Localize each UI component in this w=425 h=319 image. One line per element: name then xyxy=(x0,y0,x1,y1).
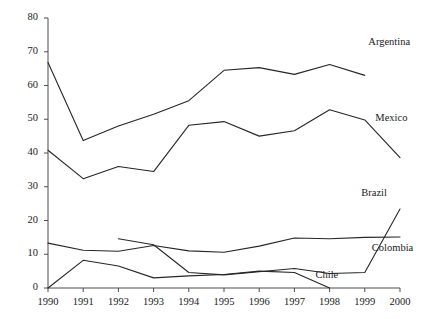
series-line-mexico xyxy=(48,110,400,179)
chart-container: 01020304050607080 1990199119921993199419… xyxy=(0,0,425,319)
series-label-mexico: Mexico xyxy=(375,112,407,123)
series-label-argentina: Argentina xyxy=(368,36,410,47)
y-tick-label: 0 xyxy=(12,281,38,292)
y-tick-label: 70 xyxy=(12,45,38,56)
series-line-chile xyxy=(48,260,330,288)
series-line-colombia xyxy=(48,237,400,252)
series-label-chile: Chile xyxy=(316,269,339,280)
y-tick-label: 30 xyxy=(12,180,38,191)
chart-series-lines xyxy=(48,63,400,288)
x-tick-label: 2000 xyxy=(378,296,422,307)
chart-axes xyxy=(48,18,400,288)
line-chart-plot xyxy=(0,0,425,319)
x-axis-ticks xyxy=(48,288,400,292)
series-label-brazil: Brazil xyxy=(361,187,387,198)
y-tick-label: 60 xyxy=(12,79,38,90)
series-label-colombia: Colombia xyxy=(372,242,413,253)
series-line-brazil xyxy=(118,209,400,275)
series-line-argentina xyxy=(48,63,365,141)
y-tick-label: 80 xyxy=(12,11,38,22)
y-tick-label: 20 xyxy=(12,214,38,225)
y-tick-label: 50 xyxy=(12,112,38,123)
y-tick-label: 10 xyxy=(12,247,38,258)
y-axis-ticks xyxy=(44,18,48,288)
y-tick-label: 40 xyxy=(12,146,38,157)
